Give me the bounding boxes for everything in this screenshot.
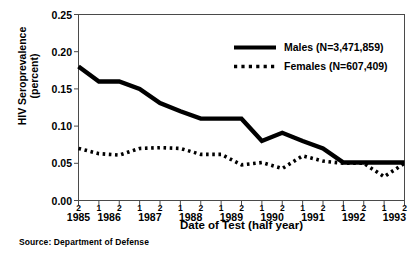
hiv-seroprevalence-chart: HIV Seroprevalence (percent) 0.000.050.1… [0, 0, 420, 258]
legend-swatch-dotted-icon [232, 58, 278, 75]
source-note: Source: Department of Defense [19, 237, 149, 247]
y-tick-marks [74, 15, 79, 201]
legend-label-females: Females (N=607,409) [284, 60, 388, 72]
legend-label-males: Males (N=3,471,859) [284, 41, 384, 53]
series-males-line [79, 67, 405, 163]
x-axis-title: Date of Test (half year) [78, 219, 405, 231]
series-females-line [79, 148, 405, 177]
legend-swatch-solid-icon [232, 39, 278, 56]
